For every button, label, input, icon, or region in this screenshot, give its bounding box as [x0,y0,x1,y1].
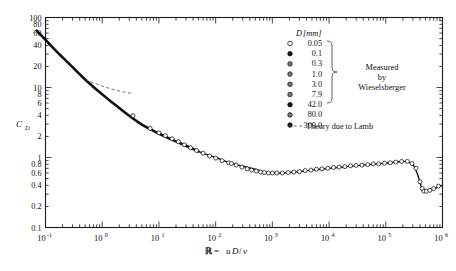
svg-text:10: 10 [94,234,102,243]
data-point-marker [208,154,212,158]
data-point-marker [432,187,436,191]
data-point-marker [326,166,330,170]
y-tick-label: 6 [37,99,41,108]
svg-text:6: 6 [445,232,448,238]
x-axis-label-u: u [226,246,231,256]
legend-value: 0.1 [312,49,322,58]
svg-text:10: 10 [321,234,329,243]
y-tick-label: 0.4 [31,181,41,190]
figure-background [0,0,456,271]
data-point-marker [343,165,347,169]
svg-text:10: 10 [434,234,442,243]
legend-value: 80.0 [308,110,322,119]
svg-text:2: 2 [218,232,221,238]
chart-svg: 1008060402010864210.80.60.40.20.1 10-110… [0,0,456,271]
legend-value: 7.9 [312,90,322,99]
data-point-marker [250,168,254,172]
data-point-marker [314,167,318,171]
data-point-marker [163,134,167,138]
svg-text:1: 1 [161,232,164,238]
y-tick-label: 0.8 [31,160,41,169]
y-tick-label: 80 [33,20,41,29]
y-tick-label: 0.2 [31,202,41,211]
legend-value: 1.0 [312,70,322,79]
legend-measured-line2: by [378,73,387,82]
data-point-marker [270,171,274,175]
data-point-marker [303,169,307,173]
legend-marker-filled-circle [288,102,293,107]
drag-coefficient-figure: 1008060402010864210.80.60.40.20.1 10-110… [0,0,456,271]
data-point-marker [410,162,414,166]
legend-marker-quartered-circle [288,92,293,97]
data-point-marker [320,167,324,171]
data-point-marker [245,167,249,171]
data-point-marker [170,137,174,141]
data-point-marker [292,170,296,174]
x-axis-label-symbol: ℝ [205,246,213,256]
x-axis-label-D: D [231,246,239,256]
x-axis-label-equals: = [214,246,219,256]
data-point-marker [286,171,290,175]
legend-value: 0.05 [308,39,322,48]
data-point-marker [371,162,375,166]
svg-text:-1: -1 [47,232,52,238]
data-point-marker [214,156,218,160]
data-point-marker [131,114,135,118]
data-point-marker [377,162,381,166]
legend-marker-crossed-circle [288,82,293,87]
data-point-marker [275,171,279,175]
data-point-marker [400,159,404,163]
svg-text:3: 3 [275,232,278,238]
svg-text:5: 5 [388,232,391,238]
legend-marker-half-circle [288,113,293,118]
x-axis-label: ℝ = u D / ν [205,246,247,256]
data-point-marker [280,171,284,175]
legend-measured-line3: Wieselsberger [358,83,406,92]
svg-text:10: 10 [207,234,215,243]
data-point-marker [188,146,192,150]
legend-header-unit: [mm] [303,29,322,38]
data-point-marker [418,180,422,184]
legend-marker-filled-circle [288,123,293,128]
svg-text:4: 4 [332,232,335,238]
data-point-marker [297,170,301,174]
data-point-marker [254,169,258,173]
data-point-marker [176,140,180,144]
data-point-marker [354,163,358,167]
data-point-marker [405,159,409,163]
y-tick-label: 0.6 [31,169,41,178]
legend-marker-filled-circle [288,51,293,56]
data-point-marker [383,161,387,165]
x-axis-label-nu: ν [243,246,247,256]
data-point-marker [182,143,186,147]
data-point-marker [337,165,341,169]
y-tick-label: 20 [33,62,41,71]
data-point-marker [195,148,199,152]
legend-value: 0.3 [312,59,322,68]
svg-text:10: 10 [151,234,159,243]
legend-theory-label: Theory due to Lamb [306,122,373,131]
legend-measured-line1: Measured [365,63,399,72]
svg-text:10: 10 [378,234,386,243]
data-point-marker [157,131,161,135]
y-tick-label: 4 [37,111,41,120]
y-axis-label-subscript: D [24,124,30,131]
y-axis-label-symbol: C [16,119,23,129]
data-point-marker [229,162,233,166]
data-point-marker [360,163,364,167]
data-point-marker [388,161,392,165]
data-point-marker [262,171,266,175]
y-tick-label: 2 [37,132,41,141]
y-tick-label: 0.1 [31,224,41,233]
data-point-marker [240,165,244,169]
data-point-marker [201,151,205,155]
svg-text:10: 10 [37,234,45,243]
data-point-marker [148,126,152,130]
legend-value: 42.0 [308,100,322,109]
data-point-marker [437,184,441,188]
data-point-marker [309,168,313,172]
data-point-marker [332,165,336,169]
y-tick-label: 40 [33,41,41,50]
data-point-marker [428,188,432,192]
data-point-marker [394,160,398,164]
